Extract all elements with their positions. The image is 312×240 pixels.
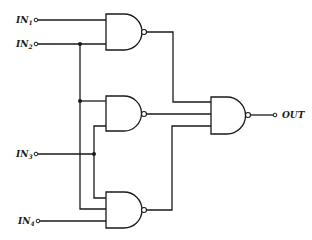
logic-circuit-diagram: IN1 IN2 IN3 IN4 OUT bbox=[0, 0, 312, 240]
input-label-in4: IN4 bbox=[17, 216, 35, 227]
input-label-in1: IN1 bbox=[15, 15, 33, 26]
output-label: OUT bbox=[282, 110, 306, 120]
inverter-bubble-g1 bbox=[142, 30, 147, 35]
wire-g3-g4 bbox=[147, 126, 212, 210]
junction-dot-in2 bbox=[78, 42, 82, 46]
inverter-bubble-g2 bbox=[142, 112, 147, 117]
nand-gate-g1 bbox=[106, 14, 142, 50]
output-terminal bbox=[273, 113, 277, 117]
input-label-in2: IN2 bbox=[15, 39, 33, 50]
input-terminal-in1 bbox=[34, 18, 38, 22]
inverter-bubble-g4 bbox=[246, 113, 251, 118]
input-terminal-in2 bbox=[34, 42, 38, 46]
junction-dot-in3 bbox=[92, 152, 96, 156]
nand-gate-g2 bbox=[106, 96, 142, 131]
input-terminal-in3 bbox=[34, 152, 38, 156]
wire-g1-g4 bbox=[147, 32, 212, 102]
junction-dot-in2-g2 bbox=[78, 99, 82, 103]
wire-in3-bus bbox=[94, 126, 106, 198]
input-label-in3: IN3 bbox=[15, 149, 33, 160]
nand-gate-g4 bbox=[211, 97, 246, 134]
input-terminal-in4 bbox=[36, 219, 40, 223]
nand-gate-g3 bbox=[106, 192, 142, 228]
inverter-bubble-g3 bbox=[142, 208, 147, 213]
